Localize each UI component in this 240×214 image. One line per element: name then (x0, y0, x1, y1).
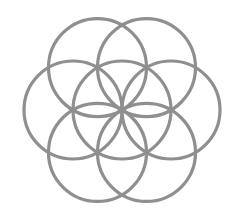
circle-group (24, 19, 220, 202)
seed-of-life-figure (0, 0, 240, 214)
